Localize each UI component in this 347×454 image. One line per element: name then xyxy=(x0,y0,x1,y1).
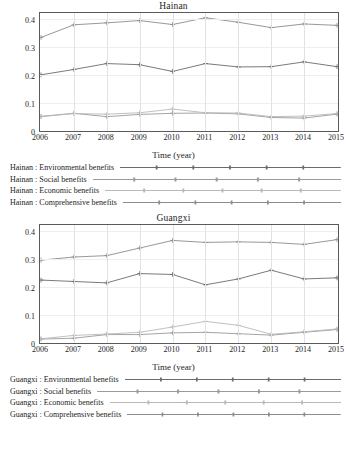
legend-line-sample xyxy=(120,162,341,173)
gridline-vertical xyxy=(238,225,239,343)
gridline-vertical xyxy=(238,13,239,131)
x-tick-label: 2013 xyxy=(262,345,278,355)
legend-line-sample xyxy=(110,397,341,408)
chart-panel-guangxi: Guangxi 00.10.20.30.4 200620072008200920… xyxy=(0,212,347,420)
x-tick-label: 2014 xyxy=(295,345,311,355)
series-economic xyxy=(40,319,338,341)
y-tick-label: 0.2 xyxy=(25,73,35,81)
gridline-horizontal xyxy=(40,47,338,48)
x-tick-label: 2008 xyxy=(98,133,114,143)
page-title-guangxi: Guangxi xyxy=(0,212,347,224)
y-tick-label: 0.4 xyxy=(25,229,35,237)
gridline-vertical xyxy=(205,225,206,343)
x-axis-labels-hainan: 2006200720082009201020112012201320142015 xyxy=(39,133,339,145)
gridline-vertical xyxy=(107,13,108,131)
series-social xyxy=(40,327,338,341)
x-tick-label: 2010 xyxy=(164,345,180,355)
x-tick-label: 2007 xyxy=(65,345,81,355)
legend-item[interactable]: Guangxi : Environmental benefits xyxy=(10,374,341,386)
gridline-vertical xyxy=(140,225,141,343)
gridline-horizontal xyxy=(40,231,338,232)
x-tick-label: 2010 xyxy=(164,133,180,143)
x-tick-label: 2006 xyxy=(32,133,48,143)
y-tick-label: 0.3 xyxy=(25,45,35,53)
x-tick-label: 2012 xyxy=(229,133,245,143)
y-axis-labels-hainan: 00.10.20.30.4 xyxy=(0,12,38,138)
gridline-vertical xyxy=(271,13,272,131)
gridline-vertical xyxy=(271,225,272,343)
x-tick-label: 2006 xyxy=(32,345,48,355)
legend-line-sample xyxy=(97,386,341,397)
series-social xyxy=(40,111,338,121)
gridline-horizontal xyxy=(40,75,338,76)
gridline-vertical xyxy=(173,225,174,343)
x-tick-label: 2012 xyxy=(229,345,245,355)
x-axis-labels-guangxi: 2006200720082009201020112012201320142015 xyxy=(39,345,339,357)
legend-label: Guangxi : Environmental benefits xyxy=(10,374,119,385)
y-axis-labels-guangxi: 00.10.20.30.4 xyxy=(0,224,38,350)
gridline-horizontal xyxy=(40,315,338,316)
y-tick-label: 0.2 xyxy=(25,285,35,293)
legend-line-sample xyxy=(123,197,341,208)
gridline-vertical xyxy=(304,13,305,131)
gridline-vertical xyxy=(140,13,141,131)
y-tick-label: 0.4 xyxy=(25,17,35,25)
legend-line-sample xyxy=(127,409,341,420)
y-tick-label: 0.1 xyxy=(25,101,35,109)
gridline-horizontal xyxy=(40,103,338,104)
y-tick-label: 0.1 xyxy=(25,313,35,321)
legend-label: Guangxi : Social benefits xyxy=(10,386,91,397)
legend-line-sample xyxy=(105,185,341,196)
legend-label: Hainan : Comprehensive benefits xyxy=(10,197,117,208)
x-tick-label: 2008 xyxy=(98,345,114,355)
line-series-guangxi xyxy=(40,225,338,343)
plot-area-guangxi: 00.10.20.30.4 20062007200820092010201120… xyxy=(0,224,347,350)
plot-area-hainan: 00.10.20.30.4 20062007200820092010201120… xyxy=(0,12,347,138)
legend-label: Guangxi : Comprehensive benefits xyxy=(10,409,121,420)
legend-item[interactable]: Hainan : Economic benefits xyxy=(10,185,341,197)
legend-guangxi: Guangxi : Environmental benefitsGuangxi … xyxy=(0,374,347,420)
gridline-horizontal xyxy=(40,259,338,260)
legend-label: Guangxi : Economic benefits xyxy=(10,397,104,408)
page-title: Hainan xyxy=(0,0,347,12)
legend-label: Hainan : Environmental benefits xyxy=(10,162,114,173)
legend-label: Hainan : Economic benefits xyxy=(10,185,99,196)
gridline-vertical xyxy=(74,13,75,131)
legend-line-sample xyxy=(93,174,341,185)
gridline-vertical xyxy=(107,225,108,343)
x-axis-title-hainan: Time (year) xyxy=(0,149,347,161)
gridline-horizontal xyxy=(40,19,338,20)
gridline-horizontal xyxy=(40,287,338,288)
legend-line-sample xyxy=(125,374,341,385)
x-tick-label: 2009 xyxy=(131,345,147,355)
legend-item[interactable]: Guangxi : Comprehensive benefits xyxy=(10,409,341,421)
gridline-vertical xyxy=(173,13,174,131)
x-tick-label: 2009 xyxy=(131,133,147,143)
gridline-vertical xyxy=(205,13,206,131)
x-tick-label: 2011 xyxy=(197,133,213,143)
legend-item[interactable]: Hainan : Comprehensive benefits xyxy=(10,197,341,209)
y-tick-label: 0.3 xyxy=(25,257,35,265)
plot-frame-guangxi xyxy=(39,224,339,344)
plot-frame-hainan xyxy=(39,12,339,132)
legend-item[interactable]: Guangxi : Economic benefits xyxy=(10,397,341,409)
gridline-vertical xyxy=(304,225,305,343)
legend-item[interactable]: Guangxi : Social benefits xyxy=(10,386,341,398)
x-tick-label: 2015 xyxy=(328,133,344,143)
x-tick-label: 2011 xyxy=(197,345,213,355)
series-environmental xyxy=(40,268,338,287)
x-tick-label: 2014 xyxy=(295,133,311,143)
gridline-vertical xyxy=(74,225,75,343)
chart-panel-hainan: Hainan 00.10.20.30.4 2006200720082009201… xyxy=(0,0,347,208)
legend-item[interactable]: Hainan : Environmental benefits xyxy=(10,162,341,174)
legend-label: Hainan : Social benefits xyxy=(10,174,87,185)
x-axis-title-guangxi: Time (year) xyxy=(0,361,347,373)
line-series-hainan xyxy=(40,13,338,131)
x-tick-label: 2007 xyxy=(65,133,81,143)
x-tick-label: 2013 xyxy=(262,133,278,143)
x-tick-label: 2015 xyxy=(328,345,344,355)
legend-item[interactable]: Hainan : Social benefits xyxy=(10,174,341,186)
legend-hainan: Hainan : Environmental benefitsHainan : … xyxy=(0,162,347,208)
